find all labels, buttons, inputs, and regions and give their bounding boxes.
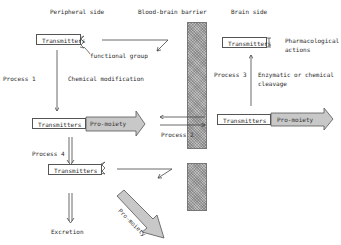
- process-4-label: Process 4: [32, 150, 65, 157]
- process-2-label: Process 2: [161, 131, 194, 138]
- enzymatic-cleavage-label-2: cleavage: [258, 80, 287, 87]
- pharmacological-actions-label-1: Pharmacological: [285, 37, 339, 44]
- chemical-modification-label: Chemical modification: [68, 75, 144, 82]
- transmitters-box-bottom-left: Transmitters: [48, 164, 102, 175]
- pharmacological-actions-label-2: actions: [285, 46, 310, 53]
- process-1-label: Process 1: [3, 75, 36, 82]
- transmitters-box-top-left: Transmitters: [36, 34, 81, 45]
- pro-moiety-mid-left: Pro-moiety: [90, 120, 126, 127]
- enzymatic-cleavage-label-1: Enzymatic or chemical: [258, 71, 334, 78]
- excretion-label: Excretion: [51, 228, 84, 235]
- transmitters-box-mid-left: Transmitters: [32, 118, 86, 129]
- transmitters-box-mid-right: Transmitters: [217, 114, 271, 125]
- transmitters-box-top-right: Transmitters: [222, 37, 267, 48]
- process-3-label: Process 3: [214, 71, 247, 78]
- functional-group-label: functional group: [90, 52, 148, 59]
- pro-moiety-mid-right: Pro-moiety: [277, 116, 313, 123]
